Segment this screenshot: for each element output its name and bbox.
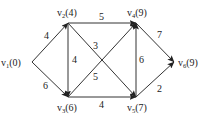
node-v4: v4(9) (127, 7, 147, 19)
node-v3: v3(6) (57, 102, 77, 114)
weight-v1-v2: 4 (44, 30, 49, 41)
edge-v5-v6 (136, 62, 174, 97)
weight-v5-v6: 2 (157, 83, 162, 94)
node-v1: v1(0) (1, 57, 21, 69)
weight-v3-v4: 5 (93, 71, 98, 82)
weight-v2-v4: 5 (99, 11, 104, 22)
edge-v1-v3 (32, 62, 68, 97)
weight-v4-v6: 7 (157, 29, 162, 40)
node-v6: v6(9) (178, 57, 198, 69)
weight-v3-v5: 4 (99, 99, 104, 110)
graph-diagram: 4 6 4 5 3 5 4 6 7 2 v1(0) v2(4) v3(6) v4… (0, 0, 213, 119)
graph-svg: 4 6 4 5 3 5 4 6 7 2 v1(0) v2(4) v3(6) v4… (0, 0, 213, 119)
node-v2: v2(4) (57, 7, 77, 19)
weight-v2-v3: 4 (72, 54, 77, 65)
node-v5: v5(7) (127, 102, 147, 114)
weight-v5-v4: 6 (139, 54, 144, 65)
weight-v2-v5: 3 (93, 40, 98, 51)
weight-v1-v3: 6 (43, 80, 48, 91)
edge-v1-v2 (32, 23, 68, 62)
